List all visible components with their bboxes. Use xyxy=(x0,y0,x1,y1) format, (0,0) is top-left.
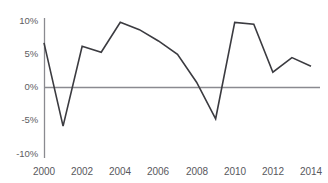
x-tick-label-2012: 2012 xyxy=(253,166,293,177)
y-tick-label-10: 10% xyxy=(4,15,38,26)
x-tick-label-2006: 2006 xyxy=(138,166,178,177)
x-tick-label-2002: 2002 xyxy=(62,166,102,177)
y-tick-label-neg10: -10% xyxy=(0,148,38,159)
y-tick-label-0: 0% xyxy=(4,81,38,92)
line-chart-plot xyxy=(0,0,328,183)
y-tick-label-neg5: -5% xyxy=(0,114,38,125)
x-tick-label-2008: 2008 xyxy=(177,166,217,177)
x-tick-label-2000: 2000 xyxy=(24,166,64,177)
data-line-series-1 xyxy=(44,22,311,126)
y-tick-label-5: 5% xyxy=(4,48,38,59)
data-series-group xyxy=(44,22,311,126)
x-tick-label-2004: 2004 xyxy=(100,166,140,177)
x-tick-label-2014: 2014 xyxy=(291,166,328,177)
x-tick-label-2010: 2010 xyxy=(215,166,255,177)
chart-container: — —— —— — —— 10% 5% 0% -5% -10% 2000 200… xyxy=(0,0,328,183)
axis-group xyxy=(44,18,320,158)
